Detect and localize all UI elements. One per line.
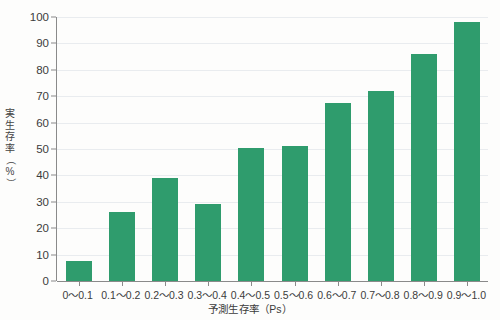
bar[interactable] — [411, 54, 437, 281]
x-axis-tick-label: 0.7〜0.8 — [360, 287, 399, 302]
x-axis-tick-mark — [295, 281, 296, 286]
bar-slot — [57, 17, 100, 281]
bar[interactable] — [325, 103, 351, 281]
plot-area — [56, 17, 488, 281]
x-axis-tick-mark — [122, 281, 123, 286]
bar-slot — [187, 17, 230, 281]
x-axis-tick-mark — [165, 281, 166, 286]
bar-slot — [230, 17, 273, 281]
y-axis-title-char: 存 — [2, 131, 18, 143]
y-axis-tick-label: 30 — [15, 196, 49, 208]
y-axis-tick-label: 0 — [15, 275, 49, 287]
x-axis-tick-mark — [79, 281, 80, 286]
bar[interactable] — [195, 204, 221, 281]
bar[interactable] — [368, 91, 394, 281]
bar[interactable] — [152, 178, 178, 281]
y-axis-tick-label: 60 — [15, 117, 49, 129]
bar-slot — [359, 17, 402, 281]
x-axis-tick-label: 0〜0.1 — [62, 287, 92, 302]
y-axis-tick-label: 20 — [15, 222, 49, 234]
y-axis-tick-label: 50 — [15, 143, 49, 155]
x-axis-tick-label: 0.3〜0.4 — [188, 287, 227, 302]
bar[interactable] — [66, 261, 92, 281]
y-axis-tick-label: 80 — [15, 64, 49, 76]
bar-slot — [273, 17, 316, 281]
bar-slot — [446, 17, 489, 281]
y-axis-tick-label: 100 — [15, 11, 49, 23]
x-axis-tick-label: 0.4〜0.5 — [231, 287, 270, 302]
x-axis-title: 予測生存率（Ps） — [0, 301, 500, 316]
x-axis-tick-label: 0.2〜0.3 — [144, 287, 183, 302]
bar[interactable] — [238, 148, 264, 281]
x-axis-tick-label: 0.5〜0.6 — [274, 287, 313, 302]
bar-chart-figure: 実 生 存 率 （ % ） 0102030405060708090100 0〜0… — [0, 0, 500, 320]
x-axis-tick-mark — [424, 281, 425, 286]
x-axis-tick-mark — [251, 281, 252, 286]
x-axis-tick-label: 0.1〜0.2 — [101, 287, 140, 302]
plot-inner — [57, 17, 488, 281]
bar-slot — [403, 17, 446, 281]
bar-slot — [143, 17, 186, 281]
y-axis-tick-label: 90 — [15, 37, 49, 49]
bar[interactable] — [109, 212, 135, 281]
x-axis-tick-mark — [338, 281, 339, 286]
bar[interactable] — [454, 22, 480, 281]
bar-slot — [316, 17, 359, 281]
x-axis-tick-label: 0.9〜1.0 — [447, 287, 486, 302]
y-axis-tick-label: 10 — [15, 249, 49, 261]
x-axis-tick-label: 0.8〜0.9 — [404, 287, 443, 302]
y-axis-tick-label: 70 — [15, 90, 49, 102]
bar-series — [57, 17, 488, 281]
bar-slot — [100, 17, 143, 281]
y-axis-tick-label: 40 — [15, 169, 49, 181]
x-axis-tick-mark — [208, 281, 209, 286]
x-axis-tick-mark — [381, 281, 382, 286]
bar[interactable] — [282, 146, 308, 281]
x-axis-tick-mark — [467, 281, 468, 286]
x-axis-tick-label: 0.6〜0.7 — [317, 287, 356, 302]
